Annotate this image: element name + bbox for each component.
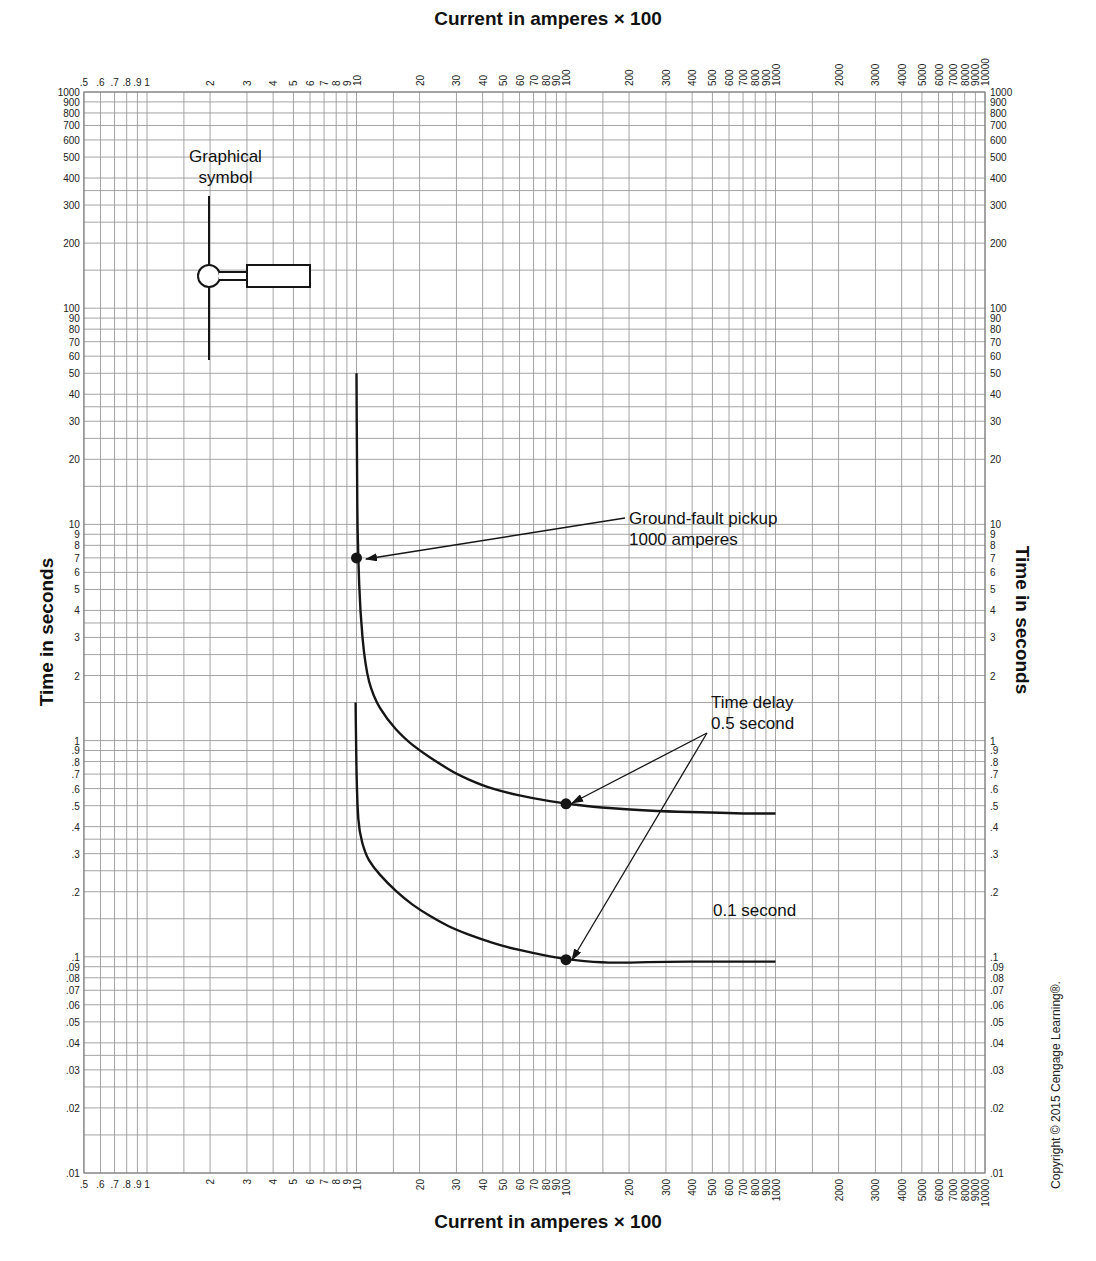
annotation-arrows xyxy=(366,518,707,960)
svg-text:6: 6 xyxy=(305,80,316,86)
svg-text:500: 500 xyxy=(707,1179,718,1196)
svg-text:90: 90 xyxy=(990,313,1002,324)
graphical-symbol-label: Graphical symbol xyxy=(168,146,283,188)
svg-text:9: 9 xyxy=(990,529,996,540)
svg-text:4: 4 xyxy=(74,605,80,616)
svg-text:5: 5 xyxy=(288,1179,299,1185)
svg-text:.7: .7 xyxy=(110,77,119,88)
ground-fault-pickup-point xyxy=(351,552,362,563)
graphical-symbol-label-line2: symbol xyxy=(168,167,283,188)
svg-text:100: 100 xyxy=(561,69,572,86)
svg-text:.7: .7 xyxy=(110,1179,119,1190)
delay-01-arrow xyxy=(572,733,707,960)
svg-text:10: 10 xyxy=(352,1179,363,1191)
svg-text:.3: .3 xyxy=(990,849,999,860)
time-current-chart: .5.5.6.6.7.7.8.8.9.911223344556677889910… xyxy=(0,0,1096,1261)
svg-text:5: 5 xyxy=(990,584,996,595)
svg-text:7000: 7000 xyxy=(948,1179,959,1202)
svg-text:.07: .07 xyxy=(66,985,80,996)
svg-text:2: 2 xyxy=(990,671,996,682)
svg-text:40: 40 xyxy=(478,1179,489,1191)
svg-text:.3: .3 xyxy=(72,849,81,860)
svg-text:2: 2 xyxy=(205,80,216,86)
svg-text:.01: .01 xyxy=(990,1168,1004,1179)
svg-text:1000: 1000 xyxy=(771,1179,782,1202)
right-axis-title: Time in seconds xyxy=(1011,546,1033,695)
svg-text:800: 800 xyxy=(750,69,761,86)
svg-text:80: 80 xyxy=(541,74,552,86)
svg-text:70: 70 xyxy=(990,337,1002,348)
svg-text:.09: .09 xyxy=(66,962,80,973)
svg-text:700: 700 xyxy=(738,1179,749,1196)
curve-markers xyxy=(351,552,572,965)
svg-text:.6: .6 xyxy=(96,77,105,88)
svg-text:.7: .7 xyxy=(990,769,999,780)
top-axis-title: Current in amperes × 100 xyxy=(0,8,1096,30)
svg-text:30: 30 xyxy=(69,416,81,427)
svg-text:700: 700 xyxy=(63,120,80,131)
svg-text:.7: .7 xyxy=(72,769,81,780)
svg-text:4: 4 xyxy=(990,605,996,616)
svg-text:1: 1 xyxy=(144,77,150,88)
svg-text:.9: .9 xyxy=(133,77,142,88)
svg-text:.08: .08 xyxy=(66,973,80,984)
svg-text:20: 20 xyxy=(415,1179,426,1191)
svg-text:50: 50 xyxy=(498,74,509,86)
svg-text:30: 30 xyxy=(990,416,1002,427)
svg-text:70: 70 xyxy=(529,1179,540,1191)
svg-text:30: 30 xyxy=(451,1179,462,1191)
svg-text:8000: 8000 xyxy=(960,1179,971,1202)
svg-text:700: 700 xyxy=(990,120,1007,131)
svg-text:80: 80 xyxy=(990,324,1002,335)
svg-text:.02: .02 xyxy=(66,1103,80,1114)
svg-text:.03: .03 xyxy=(990,1065,1004,1076)
svg-text:.07: .07 xyxy=(990,985,1004,996)
svg-text:900: 900 xyxy=(990,97,1007,108)
svg-text:6: 6 xyxy=(990,567,996,578)
svg-text:50: 50 xyxy=(69,368,81,379)
svg-text:.05: .05 xyxy=(990,1017,1004,1028)
svg-text:60: 60 xyxy=(69,351,81,362)
svg-text:8: 8 xyxy=(74,540,80,551)
svg-text:70: 70 xyxy=(69,337,81,348)
svg-text:60: 60 xyxy=(515,1179,526,1191)
svg-text:200: 200 xyxy=(624,1179,635,1196)
svg-text:600: 600 xyxy=(990,135,1007,146)
svg-text:3: 3 xyxy=(242,1179,253,1185)
time-delay-0.1-point xyxy=(561,954,572,965)
svg-text:600: 600 xyxy=(724,69,735,86)
graphical-symbol-label-line1: Graphical xyxy=(168,146,283,167)
pickup-annotation-line2: 1000 amperes xyxy=(629,529,777,550)
svg-text:3: 3 xyxy=(242,80,253,86)
svg-text:5: 5 xyxy=(288,80,299,86)
svg-text:300: 300 xyxy=(63,200,80,211)
svg-text:10000: 10000 xyxy=(980,1179,991,1207)
svg-text:3: 3 xyxy=(990,632,996,643)
svg-text:5: 5 xyxy=(74,584,80,595)
svg-text:2000: 2000 xyxy=(834,63,845,86)
svg-text:100: 100 xyxy=(561,1179,572,1196)
left-axis-title: Time in seconds xyxy=(36,558,58,707)
time-delay-annotation-line1: Time delay xyxy=(711,692,794,713)
svg-text:.5: .5 xyxy=(990,801,999,812)
svg-text:40: 40 xyxy=(478,74,489,86)
svg-text:8: 8 xyxy=(990,540,996,551)
svg-text:5000: 5000 xyxy=(917,63,928,86)
svg-text:.8: .8 xyxy=(123,77,132,88)
svg-text:.03: .03 xyxy=(66,1065,80,1076)
svg-text:.5: .5 xyxy=(80,77,89,88)
copyright-notice: Copyright © 2015 Cengage Learning®. xyxy=(1049,981,1063,1189)
time-delay-annotation-line2: 0.5 second xyxy=(711,713,794,734)
svg-text:.2: .2 xyxy=(72,887,81,898)
axis-tick-labels: .5.5.6.6.7.7.8.8.9.911223344556677889910… xyxy=(58,58,1013,1207)
svg-text:.04: .04 xyxy=(66,1038,80,1049)
svg-text:400: 400 xyxy=(63,173,80,184)
svg-text:.9: .9 xyxy=(133,1179,142,1190)
svg-text:.8: .8 xyxy=(990,757,999,768)
svg-text:30: 30 xyxy=(451,74,462,86)
svg-text:200: 200 xyxy=(624,69,635,86)
chart-grid xyxy=(84,92,985,1173)
svg-text:4: 4 xyxy=(268,80,279,86)
svg-text:60: 60 xyxy=(990,351,1002,362)
svg-text:.09: .09 xyxy=(990,962,1004,973)
